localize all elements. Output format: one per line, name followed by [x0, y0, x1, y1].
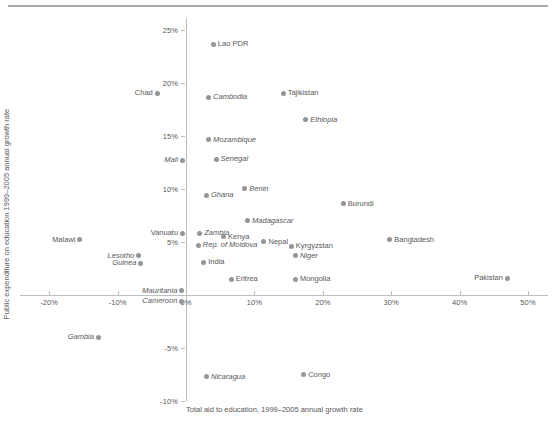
- data-point-marker[interactable]: [341, 201, 346, 206]
- x-axis-title: Total aid to education, 1999–2005 annual…: [186, 405, 363, 414]
- data-point-marker[interactable]: [204, 193, 209, 198]
- data-point-label: Mauritania: [142, 287, 177, 295]
- y-tick-mark: [181, 83, 185, 84]
- y-tick-label: 5%: [167, 237, 178, 246]
- data-point-marker[interactable]: [293, 277, 298, 282]
- y-tick-label: 20%: [163, 78, 178, 87]
- data-point-marker[interactable]: [206, 137, 211, 142]
- data-point-marker[interactable]: [179, 288, 184, 293]
- x-tick-mark: [186, 291, 187, 295]
- data-point-label: Pakistan: [474, 274, 503, 282]
- figure-container: -20%-10%0%10%20%30%40%50% -10%-5%5%10%15…: [0, 0, 555, 427]
- data-point-marker[interactable]: [180, 231, 185, 236]
- data-point-label: Bangladesh: [394, 236, 434, 244]
- x-tick-label: -10%: [109, 298, 127, 307]
- y-tick-mark: [181, 401, 185, 402]
- data-point-marker[interactable]: [289, 244, 294, 249]
- data-point-label: Benin: [249, 185, 268, 193]
- data-point-label: Niger: [300, 252, 318, 260]
- x-axis-line: [20, 295, 548, 296]
- data-point-marker[interactable]: [214, 157, 219, 162]
- y-axis-line: [186, 18, 187, 401]
- data-point-marker[interactable]: [261, 239, 266, 244]
- data-point-marker[interactable]: [301, 372, 306, 377]
- y-tick-mark: [181, 189, 185, 190]
- data-point-marker[interactable]: [138, 261, 143, 266]
- x-tick-mark: [528, 291, 529, 295]
- data-point-label: Congo: [308, 371, 330, 379]
- data-point-label: Mongolia: [300, 275, 330, 283]
- data-point-label: Mozambique: [213, 136, 256, 144]
- data-point-marker[interactable]: [245, 218, 250, 223]
- x-tick-label: -20%: [40, 298, 58, 307]
- data-point-label: Ethiopia: [310, 116, 337, 124]
- x-tick-mark: [323, 291, 324, 295]
- data-point-marker[interactable]: [387, 237, 392, 242]
- data-point-marker[interactable]: [201, 260, 206, 265]
- data-point-label: Ghana: [211, 191, 234, 199]
- scatter-plot: -20%-10%0%10%20%30%40%50% -10%-5%5%10%15…: [0, 0, 555, 427]
- data-point-marker[interactable]: [242, 186, 247, 191]
- data-point-marker[interactable]: [155, 91, 160, 96]
- data-point-label: Gambia: [68, 334, 94, 342]
- x-tick-label: 10%: [247, 298, 262, 307]
- data-point-label: Malawi: [52, 236, 75, 244]
- y-tick-label: 15%: [163, 131, 178, 140]
- data-point-marker[interactable]: [204, 374, 209, 379]
- x-tick-label: 40%: [452, 298, 467, 307]
- data-point-label: Kyrgyzstan: [296, 242, 333, 250]
- data-point-label: Nicaragua: [211, 373, 245, 381]
- y-tick-mark: [181, 242, 185, 243]
- y-tick-mark: [181, 30, 185, 31]
- data-point-label: Kenya: [228, 233, 249, 241]
- data-point-marker[interactable]: [77, 237, 82, 242]
- data-point-marker[interactable]: [293, 253, 298, 258]
- data-point-label: Burundi: [348, 200, 374, 208]
- data-point-label: Cameroon: [142, 298, 177, 306]
- data-point-label: Madagascar: [252, 217, 293, 225]
- data-point-marker[interactable]: [229, 277, 234, 282]
- data-point-marker[interactable]: [96, 335, 101, 340]
- data-point-label: Tajikistan: [288, 89, 319, 97]
- data-point-label: Cambodia: [213, 94, 247, 102]
- y-tick-label: 10%: [163, 184, 178, 193]
- y-tick-mark: [181, 136, 185, 137]
- data-point-marker[interactable]: [505, 276, 510, 281]
- data-point-marker[interactable]: [221, 234, 226, 239]
- y-tick-label: -10%: [160, 397, 178, 406]
- data-point-marker[interactable]: [211, 42, 216, 47]
- x-tick-mark: [49, 291, 50, 295]
- data-point-marker[interactable]: [281, 91, 286, 96]
- x-tick-mark: [118, 291, 119, 295]
- x-tick-label: 50%: [520, 298, 535, 307]
- x-tick-mark: [391, 291, 392, 295]
- data-point-label: Nepal: [268, 238, 288, 246]
- data-point-label: Eritrea: [236, 275, 258, 283]
- y-tick-label: 25%: [163, 25, 178, 34]
- y-tick-mark: [181, 348, 185, 349]
- data-point-marker[interactable]: [206, 95, 211, 100]
- data-point-label: Guinea: [112, 259, 136, 267]
- x-tick-label: 20%: [315, 298, 330, 307]
- y-tick-label: -5%: [164, 344, 178, 353]
- data-point-label: Senegal: [221, 155, 249, 163]
- data-point-marker[interactable]: [196, 243, 201, 248]
- x-tick-mark: [254, 291, 255, 295]
- data-point-label: Lao PDR: [218, 41, 248, 49]
- data-point-marker[interactable]: [303, 117, 308, 122]
- y-axis-title: Public expenditure on education 1999–200…: [2, 109, 11, 320]
- data-point-label: India: [208, 258, 224, 266]
- data-point-marker[interactable]: [180, 158, 185, 163]
- data-point-label: Rep. of Moldova: [203, 241, 258, 249]
- data-point-marker[interactable]: [136, 253, 141, 258]
- data-point-label: Chad: [135, 89, 153, 97]
- data-point-label: Vanuatu: [151, 230, 178, 238]
- data-point-marker[interactable]: [197, 231, 202, 236]
- data-point-label: Mali: [164, 156, 178, 164]
- x-tick-mark: [460, 291, 461, 295]
- x-tick-label: 30%: [384, 298, 399, 307]
